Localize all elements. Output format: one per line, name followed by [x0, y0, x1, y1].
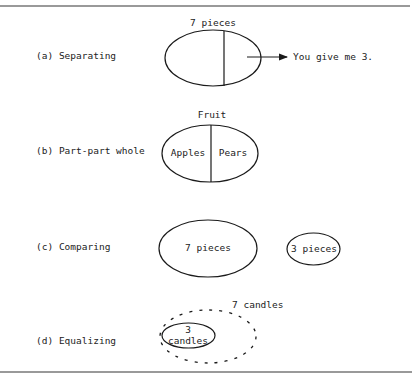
whole-label-b: Fruit	[198, 109, 227, 120]
inner-label-line1: 3	[185, 324, 191, 335]
large-set-label: 7 pieces	[185, 242, 231, 253]
inner-label-line2: candles	[168, 335, 208, 346]
panel-label-a: (a) Separating	[36, 50, 116, 61]
small-set-label: 3 pieces	[291, 243, 337, 254]
outer-label-d: 7 candles	[232, 299, 283, 310]
panel-comparing: (c) Comparing 7 pieces 3 pieces	[36, 220, 340, 277]
whole-label-a: 7 pieces	[190, 17, 236, 28]
whole-ellipse-a	[165, 30, 261, 86]
problem-types-diagram: (a) Separating 7 pieces You give me 3. (…	[0, 0, 414, 381]
panel-label-c: (c) Comparing	[36, 241, 110, 252]
panel-label-d: (d) Equalizing	[36, 335, 116, 346]
panel-separating: (a) Separating 7 pieces You give me 3.	[36, 17, 373, 86]
part-right-b: Pears	[219, 147, 248, 158]
panel-equalizing: (d) Equalizing 7 candles 3 candles	[36, 299, 283, 363]
panel-label-b: (b) Part-part whole	[36, 145, 145, 156]
result-label-a: You give me 3.	[293, 51, 373, 62]
part-left-b: Apples	[171, 147, 205, 158]
panel-part-part-whole: (b) Part-part whole Fruit Apples Pears	[36, 109, 258, 182]
